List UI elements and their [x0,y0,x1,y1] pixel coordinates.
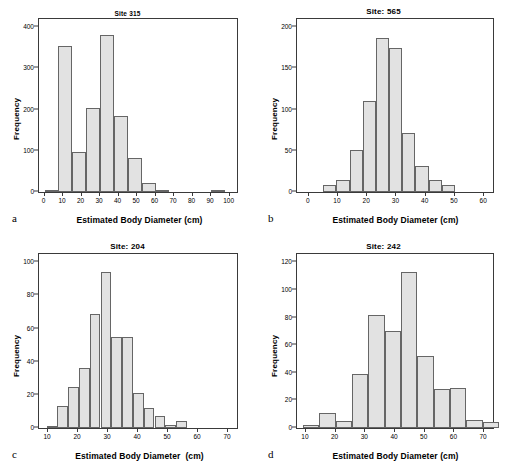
histogram-bar [429,180,442,192]
histogram-bar [90,314,101,428]
panel-b: Site: 565 Frequency 050100150200 0102030… [256,0,511,234]
panel-a-x-axis: 0102030405060708090100 [38,197,236,207]
y-axis-tick-label: 300 [0,64,34,71]
histogram-bar [72,152,86,192]
histogram-bar [350,150,363,192]
histogram-bar [57,406,68,428]
y-axis-tick-label: 120 [258,258,292,265]
x-axis-tick-label: 60 [469,197,497,204]
panel-d-y-axis: 020406080100120 [258,253,292,427]
x-axis-tick-label: 50 [440,197,468,204]
histogram-bar [450,388,466,428]
x-axis-tick-label: 10 [291,433,319,440]
panel-b-bars [297,19,493,192]
panel-d-title: Site: 242 [256,242,511,251]
panel-c: Site: 204 Frequency 020406080100 1020304… [0,235,255,469]
histogram-bar [68,387,79,428]
panel-d-plot-area [296,253,494,429]
y-axis-tick-label: 400 [0,23,34,30]
histogram-bar [156,190,170,192]
histogram-bar [336,421,352,428]
histogram-bar [323,185,336,192]
panel-c-x-axis: 10203040506070 [38,433,236,443]
x-axis-tick-label: 30 [93,433,121,440]
panel-d-bars [297,254,493,428]
panel-c-plot-area [38,253,238,429]
y-axis-tick-label: 40 [258,368,292,375]
y-axis-tick-label: 20 [258,396,292,403]
panel-c-letter: c [12,448,17,460]
histogram-bar [79,368,90,428]
y-axis-tick-label: 0 [0,424,34,431]
y-axis-tick-label: 200 [258,23,292,30]
y-axis-tick-label: 60 [0,324,34,331]
histogram-figure: Site 315 Frequency 0100200300400 0102030… [0,0,511,469]
x-axis-tick-label: 70 [469,433,497,440]
panel-a: Site 315 Frequency 0100200300400 0102030… [0,0,255,234]
y-axis-tick-label: 0 [0,188,34,195]
panel-a-title: Site 315 [0,9,255,18]
y-axis-tick-label: 150 [258,64,292,71]
panel-b-x-axis: 0102030405060 [296,197,492,207]
panel-a-xlabel: Estimated Body Diameter (cm) [30,215,249,225]
panel-a-y-axis: 0100200300400 [0,18,34,191]
x-axis-tick-label: 50 [153,433,181,440]
histogram-bar [86,108,100,192]
histogram-bar [401,272,417,428]
y-axis-tick-label: 50 [258,146,292,153]
y-axis-tick-label: 40 [0,357,34,364]
histogram-bar [100,35,114,192]
panel-d-x-axis: 10203040506070 [296,433,492,443]
y-axis-tick-label: 80 [258,313,292,320]
x-axis-tick-label: 0 [294,197,322,204]
histogram-bar [442,185,455,192]
panel-c-xlabel: Estimated Body Diameter (cm) [30,451,249,461]
histogram-bar [385,331,401,428]
histogram-bar [128,158,142,192]
y-axis-tick-label: 20 [0,390,34,397]
x-axis-tick-label: 20 [352,197,380,204]
panel-b-letter: b [268,212,274,224]
x-axis-tick-label: 10 [323,197,351,204]
x-axis-tick-label: 10 [33,433,61,440]
panel-a-plot-area [38,18,238,193]
histogram-bar [144,408,155,428]
x-axis-tick-label: 40 [123,433,151,440]
histogram-bar [363,101,376,192]
panel-b-plot-area [296,18,494,193]
x-axis-tick-label: 40 [380,433,408,440]
panel-a-bars [39,19,237,192]
x-axis-tick-label: 20 [321,433,349,440]
panel-c-y-axis: 020406080100 [0,253,34,427]
histogram-bar [133,393,144,428]
x-axis-tick-label: 50 [410,433,438,440]
x-axis-tick-label: 70 [213,433,241,440]
y-axis-tick-label: 200 [0,105,34,112]
panel-c-bars [39,254,237,428]
x-axis-tick-label: 40 [411,197,439,204]
y-axis-tick-label: 100 [0,146,34,153]
panel-c-title: Site: 204 [0,242,255,251]
x-axis-tick-label: 60 [439,433,467,440]
histogram-bar [45,190,59,192]
histogram-bar [336,180,349,192]
histogram-bar [101,272,112,428]
histogram-bar [211,190,225,192]
histogram-bar [417,356,433,428]
histogram-bar [415,166,428,192]
histogram-bar [142,183,156,192]
panel-a-letter: a [12,212,17,224]
y-axis-tick-label: 100 [258,105,292,112]
x-axis-tick-label: 60 [183,433,211,440]
x-axis-tick-label: 20 [63,433,91,440]
x-axis-tick-label: 30 [381,197,409,204]
histogram-bar [352,374,368,428]
x-axis-tick-label: 100 [215,197,243,204]
histogram-bar [402,133,415,192]
histogram-bar [122,337,133,428]
y-axis-tick-label: 100 [258,285,292,292]
x-axis-tick-label: 30 [350,433,378,440]
panel-d-letter: d [268,448,274,460]
histogram-bar [466,420,482,428]
panel-d: Site: 242 Frequency 020406080100120 1020… [256,235,511,469]
